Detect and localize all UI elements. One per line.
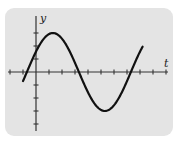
y-axis-label: y [39,12,47,25]
x-axis-label: t [164,57,169,70]
sine-chart: y t [0,0,179,142]
